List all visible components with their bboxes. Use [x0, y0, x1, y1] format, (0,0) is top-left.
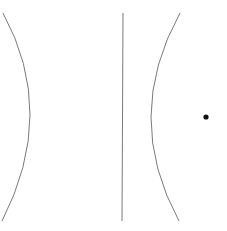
- focus-point: [203, 114, 208, 119]
- directrix-line: [122, 13, 123, 221]
- hyperbola-right-branch: [151, 13, 180, 221]
- hyperbola-diagram: [0, 0, 227, 231]
- hyperbola-left-branch: [2, 13, 30, 221]
